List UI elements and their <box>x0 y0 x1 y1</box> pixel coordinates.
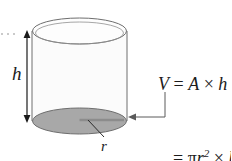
formula-times-2: × <box>214 148 224 161</box>
formula-h-symbol-1: h <box>218 74 227 94</box>
formula-h-symbol-2: h <box>229 148 232 161</box>
edge-artifact-dots <box>0 33 18 37</box>
volume-formula-line-1: V = A × h <box>131 50 231 119</box>
volume-formula: V = A × h = πr2 × h <box>131 50 231 161</box>
height-arrow-head-bottom <box>24 115 31 123</box>
formula-r-symbol: r <box>197 148 204 161</box>
formula-equals-2: = <box>173 148 183 161</box>
height-label: h <box>12 64 22 83</box>
formula-times-1: × <box>204 74 214 94</box>
formula-a-symbol: A <box>188 74 199 94</box>
cylinder-volume-figure: h r V = A × h = πr2 × h <box>0 0 231 161</box>
formula-equals-1: = <box>174 74 184 94</box>
formula-v-symbol: V <box>158 74 169 94</box>
radius-label: r <box>101 139 107 154</box>
formula-pi-symbol: π <box>188 148 197 161</box>
height-arrow-head-top <box>24 30 31 38</box>
volume-formula-line-2: = πr2 × h <box>131 119 231 161</box>
